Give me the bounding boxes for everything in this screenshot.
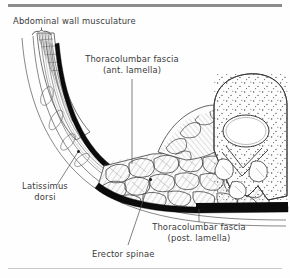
label-thoracolumbar-fascia-anterior: Thoracolumbar fascia (ant. lamella) — [78, 54, 186, 75]
vertebral-foramen — [223, 115, 269, 147]
label-tlf-ant-line1: Thoracolumbar fascia — [85, 54, 179, 64]
label-thoracolumbar-fascia-posterior: Thoracolumbar fascia (post. lamella) — [145, 222, 253, 243]
label-latissimus-line2: dorsi — [14, 192, 76, 203]
label-latissimus-line1: Latissimus — [22, 181, 68, 191]
lumbar-vertebra — [214, 74, 288, 200]
anatomy-figure: Abdominal wall musculature Thoracolumbar… — [0, 0, 290, 278]
label-latissimus-dorsi: Latissimus dorsi — [14, 181, 76, 202]
label-tlf-post-line2: (post. lamella) — [145, 233, 253, 244]
label-abdominal-wall-musculature: Abdominal wall musculature — [13, 16, 136, 27]
label-tlf-ant-line2: (ant. lamella) — [78, 65, 186, 76]
label-tlf-post-line1: Thoracolumbar fascia — [152, 222, 246, 232]
label-erector-spinae: Erector spinae — [92, 249, 155, 260]
